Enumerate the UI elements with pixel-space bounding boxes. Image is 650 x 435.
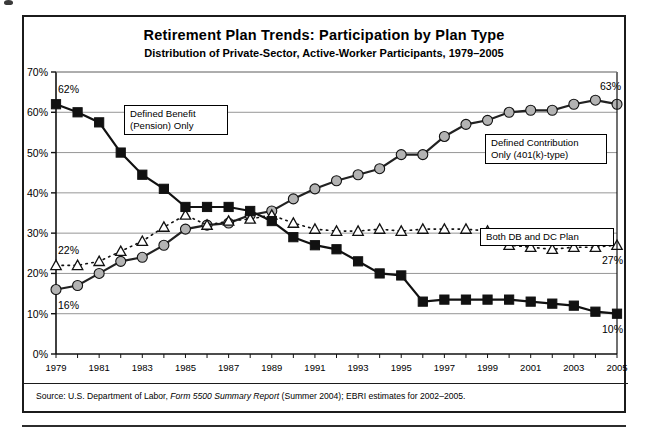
data-point-marker[interactable] (569, 301, 578, 310)
data-point-marker[interactable] (461, 295, 470, 304)
data-point-marker[interactable] (51, 100, 60, 109)
y-axis-tick-label: 50% (27, 147, 48, 159)
data-point-marker[interactable] (353, 257, 362, 266)
data-point-marker[interactable] (116, 256, 126, 266)
data-point-marker[interactable] (137, 252, 147, 262)
data-point-marker[interactable] (159, 222, 169, 231)
y-axis-tick-label: 20% (27, 267, 48, 279)
data-point-marker[interactable] (505, 295, 514, 304)
source-divider (24, 383, 628, 384)
data-point-marker[interactable] (181, 202, 190, 211)
data-point-marker[interactable] (375, 269, 384, 278)
data-point-marker[interactable] (396, 150, 406, 160)
data-point-marker[interactable] (180, 224, 190, 234)
data-point-marker[interactable] (526, 297, 535, 306)
x-axis-tick-label: 1991 (304, 362, 325, 373)
source-note: Source: U.S. Department of Labor, Form 5… (36, 391, 465, 401)
data-point-marker[interactable] (73, 108, 82, 117)
legend-both-line1: Both DB and DC Plan (486, 231, 608, 243)
data-point-marker[interactable] (289, 233, 298, 242)
data-point-marker[interactable] (224, 202, 233, 211)
data-point-marker[interactable] (548, 299, 557, 308)
data-point-marker[interactable] (288, 218, 298, 227)
data-point-marker[interactable] (418, 150, 428, 160)
y-axis-tick-label: 30% (27, 227, 48, 239)
data-point-marker[interactable] (504, 107, 514, 117)
chart-figure: Retirement Plan Trends: Participation by… (22, 15, 626, 413)
data-point-marker[interactable] (418, 297, 427, 306)
x-axis-tick-label: 2005 (606, 362, 627, 373)
data-point-marker[interactable] (461, 224, 471, 233)
data-point-marker[interactable] (591, 307, 600, 316)
data-point-marker[interactable] (51, 260, 61, 269)
data-point-marker[interactable] (310, 184, 320, 194)
data-point-marker[interactable] (353, 170, 363, 180)
scan-artifact (4, 0, 13, 5)
data-point-marker[interactable] (483, 115, 493, 125)
x-axis-tick-label: 1981 (89, 362, 110, 373)
x-axis-tick-label: 1999 (477, 362, 498, 373)
data-point-marker[interactable] (95, 118, 104, 127)
plot-area: 0%10%20%30%40%50%60%70%19791981198319851… (24, 17, 628, 415)
source-italic-form: Form 5500 (170, 391, 212, 401)
source-prefix: Source: U.S. Department of Labor, (36, 391, 168, 401)
data-point-marker[interactable] (94, 256, 104, 265)
data-point-marker[interactable] (439, 131, 449, 141)
data-point-marker[interactable] (73, 281, 83, 291)
data-point-marker[interactable] (547, 105, 557, 115)
data-point-marker[interactable] (332, 245, 341, 254)
x-axis-tick-label: 1993 (348, 362, 369, 373)
data-point-marker[interactable] (116, 246, 126, 255)
y-axis-tick-label: 0% (33, 348, 48, 360)
annotation-db-start: 62% (58, 83, 79, 95)
annotation-db-end: 10% (602, 323, 623, 335)
data-point-marker[interactable] (461, 119, 471, 129)
x-axis-tick-label: 1983 (132, 362, 153, 373)
legend-defined-contribution[interactable]: Defined Contribution Only (401(k)-type) (485, 134, 607, 164)
data-point-marker[interactable] (159, 240, 169, 250)
legend-dc-line2: Only (401(k)-type) (491, 149, 601, 161)
x-axis-tick-label: 1997 (434, 362, 455, 373)
data-point-marker[interactable] (310, 224, 320, 233)
y-axis-tick-label: 60% (27, 106, 48, 118)
data-point-marker[interactable] (483, 295, 492, 304)
data-point-marker[interactable] (397, 271, 406, 280)
y-axis-tick-label: 40% (27, 187, 48, 199)
data-point-marker[interactable] (94, 268, 104, 278)
y-axis-tick-label: 10% (27, 308, 48, 320)
data-point-marker[interactable] (332, 176, 342, 186)
annotation-dc-end: 63% (600, 80, 621, 92)
data-point-marker[interactable] (202, 202, 211, 211)
legend-db-line2: (Pension) Only (130, 120, 222, 132)
data-point-marker[interactable] (137, 236, 147, 245)
line-chart: 0%10%20%30%40%50%60%70%19791981198319851… (24, 17, 628, 415)
x-axis-tick-label: 1989 (261, 362, 282, 373)
data-point-marker[interactable] (138, 170, 147, 179)
data-point-marker[interactable] (310, 241, 319, 250)
data-point-marker[interactable] (375, 164, 385, 174)
annotation-both-end: 27% (602, 254, 623, 266)
data-point-marker[interactable] (116, 148, 125, 157)
data-point-marker[interactable] (288, 194, 298, 204)
data-point-marker[interactable] (440, 295, 449, 304)
data-point-marker[interactable] (569, 99, 579, 109)
figure-page: Retirement Plan Trends: Participation by… (0, 0, 650, 435)
annotation-dc-start: 16% (58, 299, 79, 311)
legend-both-db-dc[interactable]: Both DB and DC Plan (480, 228, 614, 246)
x-axis-tick-label: 1979 (45, 362, 66, 373)
data-point-marker[interactable] (159, 184, 168, 193)
legend-dc-line1: Defined Contribution (491, 137, 601, 149)
source-italic-report: Summary Report (214, 391, 279, 401)
data-point-marker[interactable] (267, 216, 276, 225)
x-axis-tick-label: 2001 (520, 362, 541, 373)
legend-defined-benefit[interactable]: Defined Benefit (Pension) Only (124, 105, 228, 135)
page-bottom-rule (22, 425, 626, 427)
source-suffix: (Summer 2004); EBRI estimates for 2002–2… (282, 391, 466, 401)
data-point-marker[interactable] (246, 206, 255, 215)
data-point-marker[interactable] (526, 105, 536, 115)
data-point-marker[interactable] (374, 224, 384, 233)
data-point-marker[interactable] (590, 95, 600, 105)
data-point-marker[interactable] (418, 224, 428, 233)
x-axis-tick-label: 2003 (563, 362, 584, 373)
data-point-marker[interactable] (51, 285, 61, 295)
